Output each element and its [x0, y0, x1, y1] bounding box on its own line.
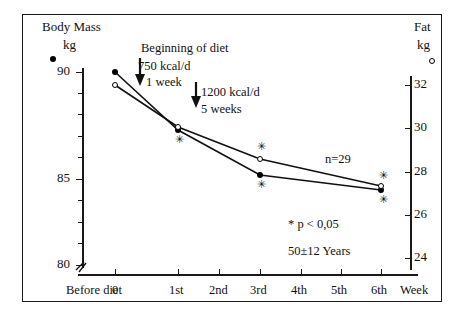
- annotation-1-week: 1 week: [146, 76, 182, 89]
- data-point-fat-3rd: [257, 156, 263, 162]
- series-line-fat: [115, 85, 381, 186]
- annotation-5-weeks: 5 weeks: [201, 103, 242, 116]
- significance-star-1st: ✳: [175, 134, 184, 145]
- significance-star-fat-6th: ✳: [379, 170, 388, 181]
- annotation-750-kcal: 750 kcal/d: [138, 60, 190, 73]
- annotation-sample-size: n=29: [325, 153, 351, 166]
- annotation-beginning-of-diet: Beginning of diet: [141, 42, 229, 55]
- axis-break-icon: [76, 262, 86, 272]
- data-point-fat-1st: [175, 124, 181, 130]
- significance-star-fat-3rd: ✳: [257, 141, 266, 152]
- data-point-body-mass-0: [112, 69, 118, 75]
- chart-figure: Body Mass kg Fat kg 90 85 80 32 30 28 26…: [0, 0, 466, 325]
- annotation-1200-kcal: 1200 kcal/d: [201, 86, 260, 99]
- plot-overlay: [0, 0, 466, 325]
- significance-star-body-mass-3rd: ✳: [257, 179, 266, 190]
- annotation-arrow-2: [191, 82, 201, 108]
- annotation-p-value: * p < 0,05: [288, 218, 339, 231]
- significance-star-body-mass-6th: ✳: [379, 194, 388, 205]
- annotation-age: 50±12 Years: [288, 245, 350, 258]
- data-point-fat-0: [112, 82, 118, 88]
- data-point-fat-6th: [378, 183, 384, 189]
